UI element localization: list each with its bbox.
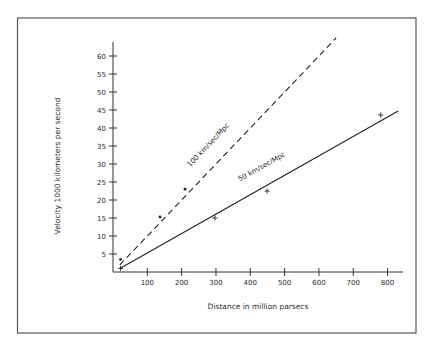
y-tick-label: 60: [97, 53, 106, 61]
data-point-dot: [184, 188, 187, 191]
y-ticks: 51015202530354045505560: [97, 53, 117, 259]
y-tick-label: 5: [102, 251, 106, 259]
y-tick-label: 15: [97, 215, 106, 223]
dashed-fit-line: [120, 38, 336, 265]
x-tick-label: 300: [209, 279, 222, 287]
x-tick-label: 500: [278, 279, 291, 287]
y-axis-label: Velocity 1000 kilometers per second: [53, 97, 62, 234]
y-tick-label: 25: [97, 179, 106, 187]
solid-fit-line: [120, 111, 398, 268]
y-tick-label: 35: [97, 143, 106, 151]
x-axis-label: Distance in million parsecs: [208, 302, 309, 311]
y-tick-label: 20: [97, 197, 106, 205]
data-point-dot: [119, 258, 122, 261]
data-point-dot: [159, 216, 162, 219]
x-tick-label: 800: [381, 279, 394, 287]
y-tick-label: 10: [97, 233, 106, 241]
x-tick-label: 200: [175, 279, 188, 287]
series-layer: [118, 38, 398, 271]
x-tick-label: 100: [141, 279, 154, 287]
x-ticks: 100200300400500600700800: [141, 268, 395, 287]
y-tick-label: 50: [97, 89, 106, 97]
x-tick-label: 400: [244, 279, 257, 287]
annotation-100-km-sec-mpc: 100 km/sec/Mpc: [186, 121, 231, 168]
y-tick-label: 45: [97, 107, 106, 115]
data-point-plus: [265, 189, 270, 194]
y-tick-label: 40: [97, 125, 106, 133]
y-tick-label: 55: [97, 71, 106, 79]
hubble-chart: 51015202530354045505560 1002003004005006…: [0, 0, 430, 354]
data-point-plus: [378, 113, 383, 118]
x-tick-label: 700: [347, 279, 360, 287]
y-tick-label: 30: [97, 161, 106, 169]
x-tick-label: 600: [312, 279, 325, 287]
